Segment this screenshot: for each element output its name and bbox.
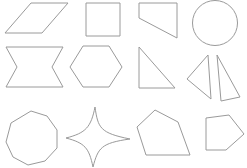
shape-concave-hexagon [6,47,63,87]
shape-trapezoid [139,3,177,38]
shape-thin-triangle-right [217,55,240,101]
shape-grid-canvas [0,0,247,168]
shape-nonagon [6,111,57,165]
shape-arrow-pentagon [206,115,244,150]
shape-pentagon [137,110,190,155]
shape-hexagon [70,46,122,87]
shape-thin-triangle-left [187,55,211,99]
shapes-svg [0,0,247,168]
shape-four-point-star [66,107,130,167]
shape-right-triangle [139,47,175,88]
shape-square [86,3,120,36]
shape-circle [193,1,238,46]
shape-parallelogram [5,3,68,33]
